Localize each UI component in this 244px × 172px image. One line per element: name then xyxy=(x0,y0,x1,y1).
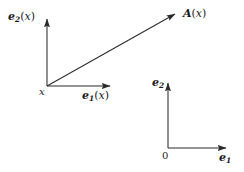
label-vector-A-of-x: A(x) xyxy=(183,8,206,19)
label-e1-name: e xyxy=(219,151,226,164)
cartesian-frame-group xyxy=(168,83,226,148)
label-e2-of-x-close-paren: ) xyxy=(31,10,35,23)
label-e2-of-x-name: e xyxy=(8,10,15,23)
vector-field-diagram: e2(x) e1(x) A(x) x e2 e1 0 xyxy=(0,0,244,172)
label-e1-of-x: e1(x) xyxy=(82,90,109,103)
label-e2: e2 xyxy=(152,77,164,90)
label-e2-subscript: 2 xyxy=(159,81,164,90)
diagram-canvas xyxy=(0,0,244,172)
label-vector-A-close-paren: ) xyxy=(202,7,206,20)
label-point-x: x xyxy=(39,87,45,97)
label-e1-subscript: 1 xyxy=(226,156,231,165)
label-e1: e1 xyxy=(219,152,231,165)
label-origin-zero: 0 xyxy=(162,151,168,161)
label-vector-A-name: A xyxy=(183,7,192,20)
label-e2-name: e xyxy=(152,76,159,89)
label-e1-of-x-name: e xyxy=(82,89,89,102)
label-e1-of-x-close-paren: ) xyxy=(105,89,109,102)
label-e2-of-x: e2(x) xyxy=(8,11,35,24)
